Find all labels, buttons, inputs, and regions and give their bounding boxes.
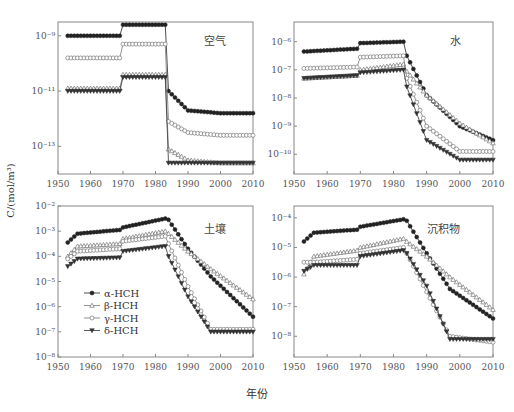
svg-text:10⁻¹⁰: 10⁻¹⁰ <box>268 149 292 159</box>
svg-text:10⁻⁸: 10⁻⁸ <box>271 331 291 341</box>
chart-panel-1: 195019601970198019902000201010⁻⁶10⁻⁷10⁻⁸… <box>268 22 505 189</box>
svg-text:1990: 1990 <box>415 362 438 372</box>
legend: α-HCHβ-HCHγ-HCHδ-HCH <box>84 288 140 337</box>
series-γ-HCH <box>66 234 255 331</box>
svg-text:10⁻⁹: 10⁻⁹ <box>35 31 55 41</box>
svg-text:2010: 2010 <box>482 179 505 189</box>
svg-text:10⁻⁴: 10⁻⁴ <box>35 251 55 261</box>
svg-text:沉积物: 沉积物 <box>427 222 460 236</box>
svg-text:1950: 1950 <box>283 362 306 372</box>
svg-text:1980: 1980 <box>382 362 405 372</box>
svg-text:2000: 2000 <box>209 179 232 189</box>
series-δ-HCH <box>302 68 496 162</box>
svg-text:10⁻⁵: 10⁻⁵ <box>35 277 55 287</box>
svg-text:1990: 1990 <box>177 362 200 372</box>
svg-text:1960: 1960 <box>316 179 339 189</box>
svg-text:2010: 2010 <box>482 362 505 372</box>
svg-text:10⁻⁸: 10⁻⁸ <box>35 352 55 362</box>
svg-text:1950: 1950 <box>283 179 306 189</box>
chart-panel-3: 195019601970198019902000201010⁻⁴10⁻⁵10⁻⁶… <box>271 206 505 372</box>
svg-text:1990: 1990 <box>177 179 200 189</box>
svg-text:δ-HCH: δ-HCH <box>104 325 139 336</box>
chart-panel-0: 195019601970198019902000201010⁻⁹10⁻¹¹10⁻… <box>32 22 265 189</box>
svg-text:1980: 1980 <box>144 179 167 189</box>
svg-text:2000: 2000 <box>448 362 471 372</box>
svg-text:空气: 空气 <box>204 34 226 48</box>
series-γ-HCH <box>302 245 495 344</box>
chart-panel-2: 195019601970198019902000201010⁻²10⁻³10⁻⁴… <box>35 201 265 372</box>
svg-text:1980: 1980 <box>382 179 405 189</box>
svg-text:10⁻²: 10⁻² <box>35 201 55 211</box>
svg-text:1970: 1970 <box>349 362 372 372</box>
svg-text:1970: 1970 <box>112 362 135 372</box>
y-axis-label: C/(mol/m³) <box>5 141 16 241</box>
svg-text:10⁻⁸: 10⁻⁸ <box>271 93 291 103</box>
svg-text:10⁻⁷: 10⁻⁷ <box>271 65 291 75</box>
series-β-HCH <box>302 62 496 145</box>
series-β-HCH <box>65 72 255 165</box>
svg-text:1950: 1950 <box>47 362 70 372</box>
svg-text:β-HCH: β-HCH <box>104 300 139 311</box>
svg-text:10⁻³: 10⁻³ <box>35 226 55 236</box>
svg-text:2010: 2010 <box>242 362 265 372</box>
figure: 195019601970198019902000201010⁻⁹10⁻¹¹10⁻… <box>0 0 514 412</box>
svg-text:2000: 2000 <box>209 362 232 372</box>
svg-text:1950: 1950 <box>47 179 70 189</box>
svg-text:水: 水 <box>450 35 461 48</box>
svg-text:10⁻⁷: 10⁻⁷ <box>271 302 291 312</box>
svg-text:10⁻⁶: 10⁻⁶ <box>35 302 55 312</box>
svg-text:α-HCH: α-HCH <box>104 288 140 299</box>
svg-text:10⁻⁴: 10⁻⁴ <box>271 213 291 223</box>
svg-text:1960: 1960 <box>79 179 102 189</box>
svg-text:10⁻⁶: 10⁻⁶ <box>271 37 291 47</box>
svg-text:10⁻⁵: 10⁻⁵ <box>271 242 291 252</box>
series-δ-HCH <box>65 244 255 334</box>
svg-text:1960: 1960 <box>316 362 339 372</box>
svg-text:10⁻⁶: 10⁻⁶ <box>271 272 291 282</box>
svg-text:2010: 2010 <box>242 179 265 189</box>
svg-text:1970: 1970 <box>112 179 135 189</box>
svg-text:10⁻⁷: 10⁻⁷ <box>35 327 55 337</box>
svg-text:10⁻⁹: 10⁻⁹ <box>271 121 291 131</box>
series-α-HCH <box>66 23 255 115</box>
svg-text:土壤: 土壤 <box>204 222 226 236</box>
series-α-HCH <box>302 217 495 320</box>
svg-text:γ-HCH: γ-HCH <box>104 313 139 324</box>
svg-text:10⁻¹³: 10⁻¹³ <box>32 141 56 151</box>
svg-text:1970: 1970 <box>349 179 372 189</box>
svg-text:1980: 1980 <box>144 362 167 372</box>
svg-text:2000: 2000 <box>448 179 471 189</box>
svg-text:1960: 1960 <box>79 362 102 372</box>
svg-text:1990: 1990 <box>415 179 438 189</box>
svg-text:10⁻¹¹: 10⁻¹¹ <box>32 86 55 96</box>
x-axis-label: 年份 <box>0 385 514 401</box>
